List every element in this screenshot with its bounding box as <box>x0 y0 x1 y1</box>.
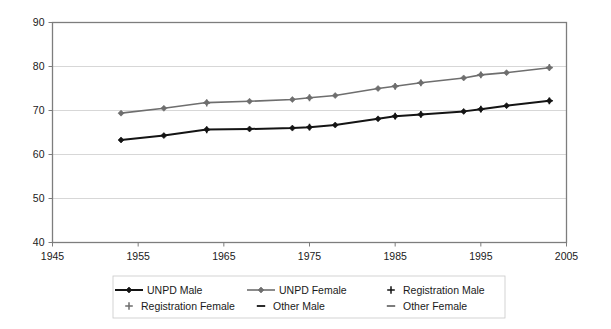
x-tick-label-1985: 1985 <box>383 250 407 262</box>
y-tick-label-50: 50 <box>33 192 45 204</box>
legend-label: Other Male <box>273 300 325 312</box>
x-tick-label-2005: 2005 <box>555 250 579 262</box>
legend-label: UNPD Male <box>147 284 203 296</box>
life-expectancy-line-chart: 405060708090 194519551965197519851995200… <box>0 0 611 329</box>
y-tick-label-80: 80 <box>33 60 45 72</box>
chart-background <box>0 0 611 329</box>
y-tick-label-60: 60 <box>33 148 45 160</box>
x-tick-label-1975: 1975 <box>298 250 322 262</box>
x-tick-label-1965: 1965 <box>212 250 236 262</box>
legend-label: Registration Female <box>141 300 235 312</box>
y-tick-label-90: 90 <box>33 16 45 28</box>
legend-item-registration-female[interactable]: Registration Female <box>125 300 235 312</box>
y-tick-label-40: 40 <box>33 236 45 248</box>
legend-label: Registration Male <box>403 284 485 296</box>
legend-label: UNPD Female <box>279 284 347 296</box>
legend-label: Other Female <box>403 300 467 312</box>
x-tick-label-1995: 1995 <box>469 250 493 262</box>
x-tick-label-1955: 1955 <box>126 250 150 262</box>
x-tick-label-1945: 1945 <box>41 250 65 262</box>
y-tick-label-70: 70 <box>33 104 45 116</box>
